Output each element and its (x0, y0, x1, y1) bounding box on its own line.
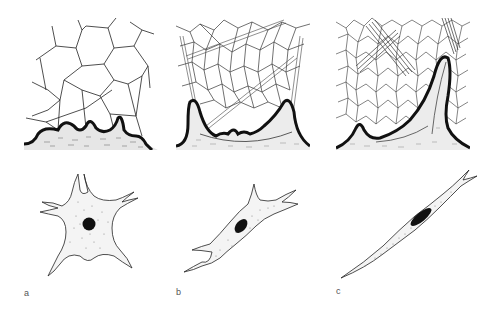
nucleus-a (83, 218, 96, 231)
tissue-network-c-icon (336, 16, 470, 150)
panel-b-cell-illustration (180, 180, 310, 280)
stellate-cell-icon (36, 172, 146, 282)
panel-a-tissue-illustration (24, 18, 158, 150)
panel-b-tissue-illustration (176, 16, 310, 150)
panel-label-b: b (176, 287, 181, 297)
panel-label-c: c (336, 286, 341, 296)
panel-label-a: a (24, 288, 29, 298)
spindle-cell-icon (180, 180, 310, 280)
tissue-network-b-icon (176, 16, 310, 150)
tissue-network-a-icon (24, 18, 158, 150)
panel-c-tissue-illustration (336, 16, 470, 150)
fusiform-cell-icon (335, 170, 485, 282)
panel-c-cell-illustration (335, 170, 485, 282)
panel-a-cell-illustration (36, 172, 146, 282)
